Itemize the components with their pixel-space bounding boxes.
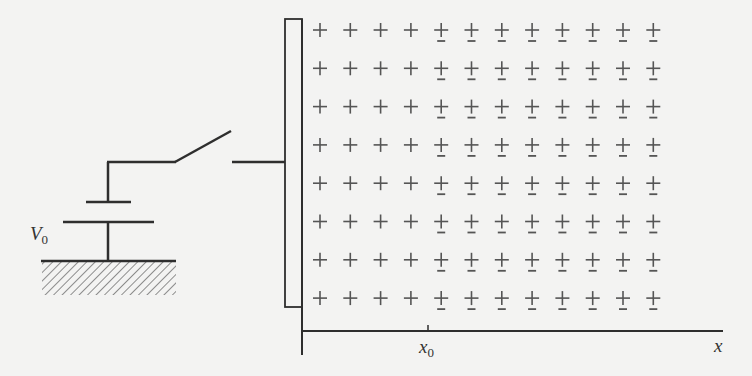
positive-charge <box>646 291 660 305</box>
positive-charge <box>313 215 327 229</box>
positive-charge <box>313 176 327 190</box>
positive-charge <box>404 23 418 37</box>
positive-charge <box>495 23 509 37</box>
positive-charge <box>465 138 479 152</box>
positive-charge <box>616 291 630 305</box>
positive-charge <box>404 176 418 190</box>
positive-charge <box>313 291 327 305</box>
positive-charge <box>404 291 418 305</box>
positive-charge <box>646 23 660 37</box>
positive-charge <box>525 176 539 190</box>
positive-charge <box>434 253 448 267</box>
positive-charge <box>586 100 600 114</box>
positive-charge <box>434 100 448 114</box>
switch-symbol <box>107 131 285 162</box>
x-axis <box>302 19 723 355</box>
positive-charge <box>646 215 660 229</box>
positive-charge <box>465 253 479 267</box>
positive-charge <box>404 100 418 114</box>
positive-charge <box>313 253 327 267</box>
positive-charge <box>586 176 600 190</box>
positive-charge <box>343 215 357 229</box>
positive-charge <box>586 291 600 305</box>
positive-charge <box>374 23 388 37</box>
positive-charge <box>525 215 539 229</box>
positive-charge <box>525 291 539 305</box>
positive-charge <box>586 215 600 229</box>
positive-charge <box>434 138 448 152</box>
positive-charge <box>646 138 660 152</box>
positive-charge <box>586 138 600 152</box>
positive-charge <box>495 138 509 152</box>
positive-charge <box>646 253 660 267</box>
positive-charge <box>495 100 509 114</box>
positive-charge <box>404 215 418 229</box>
positive-charge <box>465 215 479 229</box>
positive-charge <box>555 100 569 114</box>
positive-charge <box>313 61 327 75</box>
positive-charge <box>434 23 448 37</box>
positive-charge <box>555 291 569 305</box>
positive-charge <box>495 291 509 305</box>
positive-charge <box>343 176 357 190</box>
positive-charge <box>434 61 448 75</box>
positive-charge <box>616 253 630 267</box>
positive-charge <box>616 176 630 190</box>
positive-charge <box>374 100 388 114</box>
positive-charge <box>525 61 539 75</box>
positive-charge <box>465 23 479 37</box>
positive-charge <box>525 100 539 114</box>
positive-charge <box>495 215 509 229</box>
positive-charge <box>555 176 569 190</box>
charge-grid <box>313 23 660 309</box>
positive-charge <box>374 176 388 190</box>
positive-charge <box>495 176 509 190</box>
positive-charge <box>313 138 327 152</box>
electrode-plate <box>285 19 302 307</box>
positive-charge <box>343 138 357 152</box>
battery-symbol <box>63 162 154 261</box>
positive-charge <box>343 61 357 75</box>
positive-charge <box>374 215 388 229</box>
positive-charge <box>465 176 479 190</box>
positive-charge <box>616 23 630 37</box>
positive-charge <box>555 253 569 267</box>
positive-charge <box>555 215 569 229</box>
positive-charge <box>495 253 509 267</box>
positive-charge <box>434 291 448 305</box>
positive-charge <box>555 61 569 75</box>
positive-charge <box>495 61 509 75</box>
positive-charge <box>586 61 600 75</box>
ground-symbol <box>41 261 176 295</box>
positive-charge <box>374 138 388 152</box>
positive-charge <box>555 23 569 37</box>
positive-charge <box>646 176 660 190</box>
positive-charge <box>646 100 660 114</box>
positive-charge <box>616 215 630 229</box>
positive-charge <box>313 100 327 114</box>
positive-charge <box>555 138 569 152</box>
positive-charge <box>465 291 479 305</box>
positive-charge <box>525 138 539 152</box>
positive-charge <box>616 61 630 75</box>
positive-charge <box>313 23 327 37</box>
positive-charge <box>525 253 539 267</box>
positive-charge <box>343 253 357 267</box>
positive-charge <box>374 61 388 75</box>
positive-charge <box>404 253 418 267</box>
x-axis-label: x <box>713 335 723 356</box>
positive-charge <box>374 291 388 305</box>
positive-charge <box>586 253 600 267</box>
positive-charge <box>616 100 630 114</box>
positive-charge <box>465 61 479 75</box>
positive-charge <box>616 138 630 152</box>
positive-charge <box>646 61 660 75</box>
positive-charge <box>434 176 448 190</box>
positive-charge <box>374 253 388 267</box>
positive-charge <box>434 215 448 229</box>
positive-charge <box>586 23 600 37</box>
positive-charge <box>343 100 357 114</box>
positive-charge <box>465 100 479 114</box>
diagram-canvas: V0 x0 x <box>0 0 752 376</box>
positive-charge <box>525 23 539 37</box>
